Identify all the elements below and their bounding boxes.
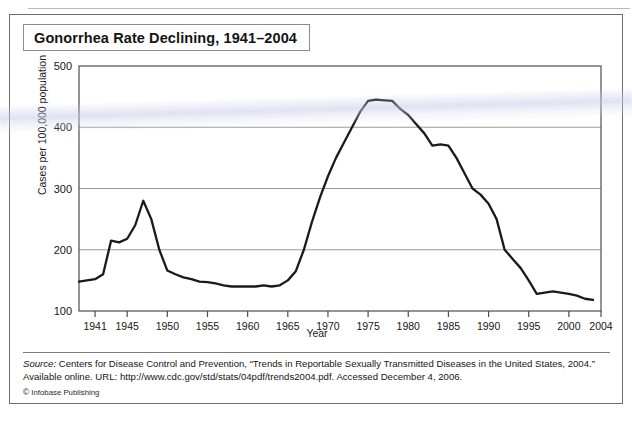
page-top-rule (28, 8, 630, 9)
source-label: Source: (23, 358, 56, 369)
source-divider (23, 352, 610, 353)
chart-title-box: Gonorrhea Rate Declining, 1941–2004 (23, 24, 310, 51)
publisher-credit: © Infobase Publishing (23, 387, 99, 397)
y-axis-label: Cases per 100,000 population (36, 35, 48, 215)
y-tick-label: 300 (54, 183, 72, 195)
line-chart: 1002003004005001941194519501955196019651… (10, 15, 624, 405)
y-tick-label: 500 (54, 60, 72, 72)
publisher-name: Infobase Publishing (31, 388, 99, 397)
y-tick-label: 200 (54, 244, 72, 256)
source-body: Centers for Disease Control and Preventi… (23, 358, 595, 382)
y-tick-label: 400 (54, 121, 72, 133)
data-series-line (79, 100, 593, 300)
plot-wrapper: 1002003004005001941194519501955196019651… (10, 15, 624, 405)
figure-panel: 1002003004005001941194519501955196019651… (9, 14, 623, 404)
y-tick-label: 100 (54, 305, 72, 317)
x-axis-label: Year (10, 327, 624, 339)
copyright-icon: © (23, 387, 29, 397)
page-title: Gonorrhea Rate Declining, 1941–2004 (34, 30, 297, 46)
source-note: Source: Centers for Disease Control and … (23, 358, 615, 383)
